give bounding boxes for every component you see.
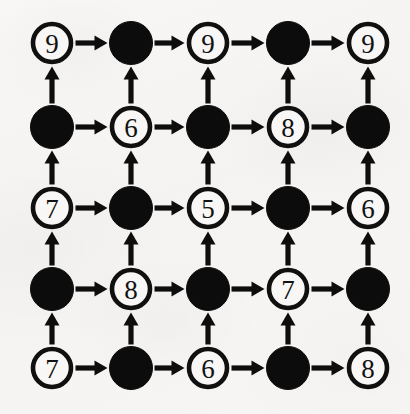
node-open-r1c3[interactable]: 9: [189, 24, 227, 62]
node-filled-r1c2[interactable]: [110, 22, 153, 65]
edge-horizontal-r4-c1: [76, 282, 108, 297]
node-label-r3c5: 6: [361, 194, 375, 224]
node-open-r3c3[interactable]: 5: [189, 189, 227, 227]
edge-horizontal-r1-c2: [155, 36, 185, 51]
node-label-r1c1: 9: [45, 29, 59, 59]
node-label-r3c3: 5: [201, 194, 215, 224]
edge-horizontal-r3-c1: [76, 201, 108, 216]
edge-vertical-c2-r2: [124, 67, 139, 104]
edge-horizontal-r4-c3: [232, 282, 265, 297]
node-open-r5c5[interactable]: 8: [349, 349, 387, 387]
edge-horizontal-r3-c4: [312, 201, 345, 216]
node-open-r4c2[interactable]: 8: [112, 270, 150, 308]
node-filled-r3c4[interactable]: [267, 187, 310, 230]
edge-vertical-c4-r5: [281, 313, 296, 345]
node-label-r1c5: 9: [361, 29, 375, 59]
node-open-r3c5[interactable]: 6: [349, 189, 387, 227]
edge-horizontal-r5-c3: [232, 361, 265, 376]
node-filled-r2c3[interactable]: [187, 106, 230, 149]
edge-horizontal-r2-c3: [232, 120, 265, 135]
edge-vertical-c1-r2: [45, 67, 60, 104]
node-filled-r1c4[interactable]: [267, 22, 310, 65]
grid-graph: 9996875687768: [0, 0, 410, 414]
node-label-r1c3: 9: [201, 29, 215, 59]
node-label-r5c3: 6: [201, 354, 215, 384]
node-open-r2c2[interactable]: 6: [112, 108, 150, 146]
edge-vertical-c3-r3: [201, 151, 216, 185]
node-filled-r4c1[interactable]: [31, 268, 74, 311]
node-label-r4c2: 8: [124, 275, 138, 305]
edge-vertical-c3-r2: [201, 67, 216, 104]
node-filled-r4c3[interactable]: [187, 268, 230, 311]
edge-vertical-c4-r2: [281, 67, 296, 104]
edge-horizontal-r2-c1: [76, 120, 108, 135]
node-open-r3c1[interactable]: 7: [33, 189, 71, 227]
edge-vertical-c3-r4: [201, 232, 216, 266]
edge-vertical-c4-r3: [281, 151, 296, 185]
node-label-r2c4: 8: [281, 113, 295, 143]
edge-vertical-c5-r2: [361, 67, 376, 104]
edge-vertical-c2-r3: [124, 151, 139, 185]
diagram-canvas: 9996875687768: [0, 0, 410, 414]
node-open-r2c4[interactable]: 8: [269, 108, 307, 146]
edge-vertical-c5-r5: [361, 313, 376, 345]
edge-horizontal-r1-c3: [232, 36, 265, 51]
edge-horizontal-r4-c2: [155, 282, 185, 297]
edge-vertical-c3-r5: [201, 313, 216, 345]
edge-horizontal-r4-c4: [312, 282, 345, 297]
edge-horizontal-r3-c2: [155, 201, 185, 216]
node-label-r3c1: 7: [45, 194, 59, 224]
node-filled-r3c2[interactable]: [110, 187, 153, 230]
edge-vertical-c1-r4: [45, 232, 60, 266]
node-filled-r2c5[interactable]: [347, 106, 390, 149]
edge-horizontal-r5-c1: [76, 361, 108, 376]
edge-vertical-c1-r5: [45, 313, 60, 345]
edge-vertical-c2-r5: [124, 313, 139, 345]
edge-vertical-c5-r3: [361, 151, 376, 185]
edge-vertical-c2-r4: [124, 232, 139, 266]
node-label-r5c1: 7: [45, 354, 59, 384]
edge-horizontal-r2-c2: [155, 120, 185, 135]
edge-horizontal-r3-c3: [232, 201, 265, 216]
node-filled-r2c1[interactable]: [31, 106, 74, 149]
node-filled-r4c5[interactable]: [347, 268, 390, 311]
node-open-r5c1[interactable]: 7: [33, 349, 71, 387]
node-filled-r5c2[interactable]: [110, 347, 153, 390]
edge-horizontal-r2-c4: [312, 120, 345, 135]
node-label-r5c5: 8: [361, 354, 375, 384]
node-label-r2c2: 6: [124, 113, 138, 143]
edge-horizontal-r1-c1: [76, 36, 108, 51]
node-open-r1c5[interactable]: 9: [349, 24, 387, 62]
node-filled-r5c4[interactable]: [267, 347, 310, 390]
edge-horizontal-r5-c2: [155, 361, 185, 376]
node-label-r4c4: 7: [281, 275, 295, 305]
node-open-r4c4[interactable]: 7: [269, 270, 307, 308]
edge-vertical-c5-r4: [361, 232, 376, 266]
edge-vertical-c1-r3: [45, 151, 60, 185]
edge-horizontal-r1-c4: [312, 36, 345, 51]
edge-vertical-c4-r4: [281, 232, 296, 266]
node-open-r5c3[interactable]: 6: [189, 349, 227, 387]
node-open-r1c1[interactable]: 9: [33, 24, 71, 62]
edge-horizontal-r5-c4: [312, 361, 345, 376]
